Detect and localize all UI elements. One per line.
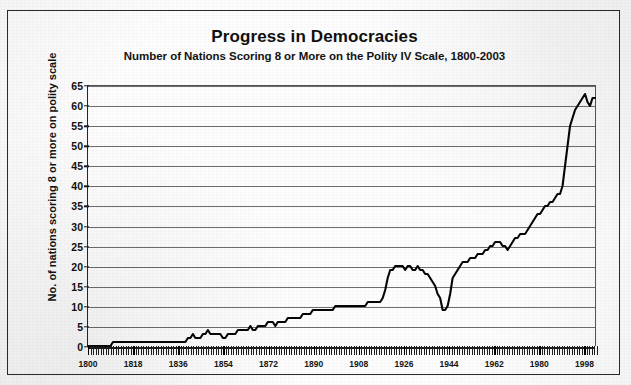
x-minor-tick	[442, 346, 443, 355]
x-minor-tick	[146, 346, 147, 355]
x-minor-tick	[361, 346, 362, 355]
x-minor-tick	[261, 346, 262, 355]
x-minor-tick	[218, 346, 219, 355]
x-minor-tick	[432, 346, 433, 355]
x-minor-tick	[256, 346, 257, 355]
x-minor-tick	[434, 346, 435, 355]
x-minor-tick	[286, 346, 287, 355]
x-minor-tick	[103, 346, 104, 355]
x-minor-tick	[564, 346, 565, 355]
x-minor-tick	[524, 346, 525, 355]
x-minor-tick	[316, 346, 317, 355]
x-minor-tick	[554, 346, 555, 355]
x-minor-tick	[324, 346, 325, 355]
x-minor-tick	[477, 346, 478, 355]
x-minor-tick	[266, 346, 267, 355]
x-minor-tick	[296, 346, 297, 355]
x-minor-tick	[198, 346, 199, 355]
x-minor-tick	[386, 346, 387, 355]
x-minor-tick	[399, 346, 400, 355]
x-minor-tick	[512, 346, 513, 355]
x-minor-tick	[396, 346, 397, 355]
x-tick-label-1818: 1818	[124, 359, 143, 369]
x-minor-tick	[544, 346, 545, 355]
x-minor-tick	[499, 346, 500, 355]
x-minor-tick	[534, 346, 535, 355]
x-minor-tick	[309, 346, 310, 355]
x-major-tick-1872	[269, 346, 270, 355]
y-tick-label-60: 60	[71, 100, 83, 112]
x-minor-tick	[284, 346, 285, 355]
x-minor-tick	[462, 346, 463, 355]
x-minor-tick	[574, 346, 575, 355]
x-minor-tick	[188, 346, 189, 355]
x-minor-tick	[93, 346, 94, 355]
x-major-tick-1800	[88, 346, 89, 355]
x-minor-tick	[346, 346, 347, 355]
x-minor-tick	[143, 346, 144, 355]
x-minor-tick	[233, 346, 234, 355]
x-minor-tick	[424, 346, 425, 355]
x-tick-label-1872: 1872	[259, 359, 278, 369]
x-minor-tick	[529, 346, 530, 355]
chart-title: Progress in Democracies	[8, 27, 621, 47]
x-minor-tick	[108, 346, 109, 355]
x-minor-tick	[484, 346, 485, 355]
x-minor-tick	[409, 346, 410, 355]
x-minor-tick	[509, 346, 510, 355]
x-tick-label-1800: 1800	[79, 359, 98, 369]
x-major-tick-1962	[494, 346, 495, 355]
x-minor-tick	[171, 346, 172, 355]
x-minor-tick	[98, 346, 99, 355]
x-minor-tick	[444, 346, 445, 355]
x-minor-tick	[126, 346, 127, 355]
y-tick-label-55: 55	[71, 120, 83, 132]
x-minor-tick	[301, 346, 302, 355]
x-minor-tick	[406, 346, 407, 355]
x-tick-label-1962: 1962	[485, 359, 504, 369]
x-minor-tick	[166, 346, 167, 355]
x-minor-tick	[304, 346, 305, 355]
x-minor-tick	[469, 346, 470, 355]
x-minor-tick	[203, 346, 204, 355]
x-minor-tick	[241, 346, 242, 355]
x-minor-tick	[414, 346, 415, 355]
y-tick-label-65: 65	[71, 80, 83, 92]
x-minor-tick	[193, 346, 194, 355]
x-minor-tick	[264, 346, 265, 355]
x-minor-tick	[577, 346, 578, 355]
x-minor-tick	[181, 346, 182, 355]
x-tick-label-1890: 1890	[304, 359, 323, 369]
x-minor-tick	[507, 346, 508, 355]
x-minor-tick	[176, 346, 177, 355]
x-minor-tick	[394, 346, 395, 355]
x-minor-tick	[416, 346, 417, 355]
x-tick-label-1854: 1854	[214, 359, 233, 369]
series-line-democracies	[88, 94, 595, 346]
x-minor-tick	[183, 346, 184, 355]
y-tick-label-25: 25	[71, 241, 83, 253]
x-minor-tick	[276, 346, 277, 355]
x-minor-tick	[319, 346, 320, 355]
x-minor-tick	[289, 346, 290, 355]
x-minor-tick	[592, 346, 593, 355]
x-minor-tick	[334, 346, 335, 355]
x-minor-tick	[274, 346, 275, 355]
x-minor-tick	[96, 346, 97, 355]
x-minor-tick	[542, 346, 543, 355]
x-minor-tick	[504, 346, 505, 355]
x-minor-tick	[138, 346, 139, 355]
x-minor-tick	[163, 346, 164, 355]
x-minor-tick	[279, 346, 280, 355]
x-minor-tick	[452, 346, 453, 355]
x-minor-tick	[306, 346, 307, 355]
x-minor-tick	[579, 346, 580, 355]
x-minor-tick	[457, 346, 458, 355]
x-minor-tick	[421, 346, 422, 355]
x-minor-tick	[158, 346, 159, 355]
x-minor-tick	[186, 346, 187, 355]
x-minor-tick	[113, 346, 114, 355]
x-minor-tick	[522, 346, 523, 355]
x-minor-tick	[439, 346, 440, 355]
x-minor-tick	[116, 346, 117, 355]
